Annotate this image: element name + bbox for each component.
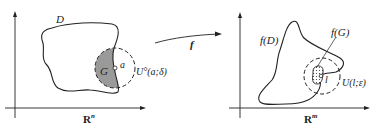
left-panel: D G a U°(a;δ) Rn <box>5 11 168 125</box>
domain-d-label: D <box>55 13 64 25</box>
space-rm-label: Rm <box>304 112 318 125</box>
right-x-axis-arrow-icon <box>364 106 370 110</box>
diagram-canvas: D G a U°(a;δ) Rn f <box>0 0 376 131</box>
image-fg-label: f(G) <box>331 26 350 39</box>
point-l-marker <box>319 74 323 78</box>
mapping-arrow: f <box>155 32 222 51</box>
fg-leader-line <box>317 37 336 67</box>
right-panel: f(D) f(G) l U(l;ε) Rm <box>229 12 370 125</box>
point-l-label: l <box>325 74 328 85</box>
left-y-axis-arrow-icon <box>13 11 17 17</box>
space-rn-label: Rn <box>83 112 95 125</box>
mapping-f-arrow <box>155 34 219 43</box>
subset-g-label: G <box>100 65 108 77</box>
point-a-marker <box>113 66 117 70</box>
right-y-axis-arrow-icon <box>238 12 242 18</box>
mapping-f-label: f <box>190 38 195 50</box>
neighborhood-u-eps-label: U(l;ε) <box>342 77 367 89</box>
point-a-label: a <box>120 59 125 70</box>
mapping-arrowhead-icon <box>215 32 222 37</box>
left-x-axis-arrow-icon <box>140 106 146 110</box>
neighborhood-u-label: U°(a;δ) <box>136 66 168 78</box>
image-fd-label: f(D) <box>260 34 279 47</box>
